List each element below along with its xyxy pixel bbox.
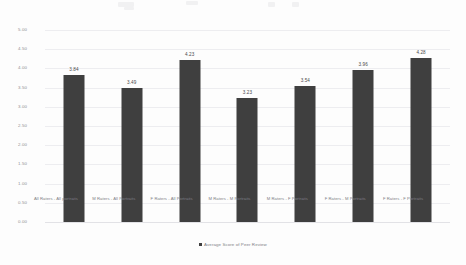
legend-square-marker	[199, 243, 202, 246]
bar-slot: 3.96	[334, 30, 392, 222]
y-axis-tick-label: 2.00	[18, 141, 42, 149]
x-axis-category-label: M Raters - M Portraits	[208, 196, 250, 201]
y-axis-tick-label: 1.50	[18, 160, 42, 168]
scan-artifact-blob	[292, 2, 299, 7]
bar-slot: 3.54	[276, 30, 334, 222]
bar-value-label: 3.84	[69, 67, 78, 72]
bar-value-label: 4.23	[185, 52, 194, 57]
bar-slot: 3.84	[45, 30, 103, 222]
bar-value-label: 3.96	[359, 62, 368, 67]
legend-label: Average Score of Peer Review	[204, 242, 267, 247]
x-axis-category-label: F Raters - F Portraits	[383, 196, 423, 201]
y-axis-tick-label: 3.50	[18, 84, 42, 92]
x-axis-category-label: M Raters - All Portraits	[92, 196, 135, 201]
x-axis-category-label: F Raters - All Portraits	[151, 196, 193, 201]
x-axis-category-label: F Raters - M Portraits	[325, 196, 366, 201]
bar-slot: 3.49	[103, 30, 161, 222]
plot-area: 5.004.504.003.503.002.502.001.501.000.50…	[18, 30, 450, 222]
y-axis-tick-label: 2.50	[18, 122, 42, 130]
x-axis-category-label: All Raters - All portraits	[34, 196, 78, 201]
x-axis-category-labels: All Raters - All portraitsM Raters - All…	[27, 196, 432, 208]
bar-value-label: 4.28	[416, 50, 425, 55]
bar-value-label: 3.54	[301, 78, 310, 83]
y-axis-tick-label: 0.00	[18, 218, 42, 226]
bar-slot: 4.23	[161, 30, 219, 222]
scan-artifact-blob	[268, 2, 275, 7]
chart-page: 5.004.504.003.503.002.502.001.501.000.50…	[0, 0, 466, 265]
y-axis-tick-label: 1.00	[18, 180, 42, 188]
y-axis-tick-label: 4.00	[18, 64, 42, 72]
y-axis-tick-label: 4.50	[18, 45, 42, 53]
bar-slot: 4.28	[392, 30, 450, 222]
scan-artifact-blob	[186, 1, 198, 5]
bar-slot: 3.23	[219, 30, 277, 222]
y-axis-tick-label: 5.00	[18, 26, 42, 34]
bar-value-label: 3.23	[243, 90, 252, 95]
gridline	[45, 222, 450, 223]
scan-artifact-blob	[124, 7, 134, 10]
bar-value-label: 3.49	[127, 80, 136, 85]
scan-artifact	[0, 0, 466, 14]
bar-series-group: 3.843.494.233.233.543.964.28	[45, 30, 450, 222]
x-axis-category-label: M Raters - F Portraits	[267, 196, 308, 201]
y-axis-tick-label: 3.00	[18, 103, 42, 111]
chart-legend: Average Score of Peer Review	[0, 242, 466, 247]
